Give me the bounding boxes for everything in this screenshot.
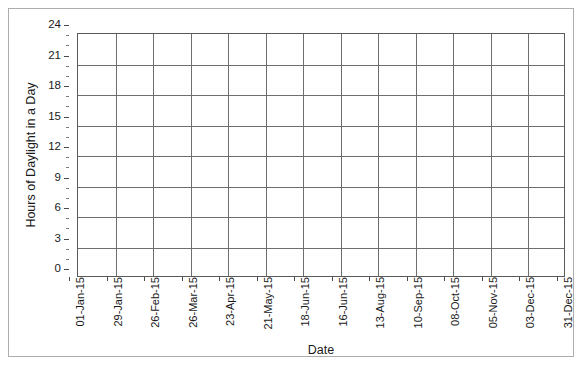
y-axis-title: Hours of Daylight in a Day bbox=[23, 33, 39, 277]
y-minor-tick bbox=[66, 127, 69, 128]
x-tick-label: 08-Oct-15 bbox=[449, 277, 462, 339]
x-tick-label: 31-Dec-15 bbox=[562, 277, 575, 339]
gridline-vertical bbox=[453, 34, 454, 276]
x-major-tick bbox=[557, 277, 558, 281]
y-minor-tick bbox=[66, 249, 69, 250]
y-major-tick bbox=[64, 239, 69, 240]
gridline-vertical bbox=[153, 34, 154, 276]
x-major-tick bbox=[144, 277, 145, 281]
x-tick-label: 16-Jun-15 bbox=[337, 277, 350, 339]
y-minor-tick bbox=[66, 45, 69, 46]
gridline-vertical bbox=[191, 34, 192, 276]
x-tick-label: 18-Jun-15 bbox=[299, 277, 312, 339]
figure-frame: 03691215182124 Hours of Daylight in a Da… bbox=[8, 8, 574, 357]
y-major-tick bbox=[64, 56, 69, 57]
x-tick-label: 03-Dec-15 bbox=[524, 277, 537, 339]
x-major-tick bbox=[444, 277, 445, 281]
x-tick-label: 29-Jan-15 bbox=[112, 277, 125, 339]
y-minor-tick bbox=[66, 35, 69, 36]
y-major-tick bbox=[64, 25, 69, 26]
x-tick-label: 23-Apr-15 bbox=[224, 277, 237, 339]
gridline-vertical bbox=[528, 34, 529, 276]
y-major-tick bbox=[64, 208, 69, 209]
x-tick-label: 05-Nov-15 bbox=[487, 277, 500, 339]
x-major-tick bbox=[332, 277, 333, 281]
gridline-vertical bbox=[228, 34, 229, 276]
gridline-vertical bbox=[416, 34, 417, 276]
x-tick-label: 01-Jan-15 bbox=[74, 277, 87, 339]
x-major-tick bbox=[482, 277, 483, 281]
x-major-tick bbox=[257, 277, 258, 281]
x-major-tick bbox=[294, 277, 295, 281]
y-major-tick bbox=[64, 117, 69, 118]
x-major-tick bbox=[369, 277, 370, 281]
y-minor-tick bbox=[66, 198, 69, 199]
x-major-tick bbox=[69, 277, 70, 281]
x-tick-label: 21-May-15 bbox=[262, 277, 275, 339]
x-major-tick bbox=[219, 277, 220, 281]
y-minor-tick bbox=[66, 157, 69, 158]
gridline-vertical bbox=[303, 34, 304, 276]
x-tick-label: 10-Sep-15 bbox=[412, 277, 425, 339]
gridline-vertical bbox=[116, 34, 117, 276]
x-tick-label: 26-Feb-15 bbox=[149, 277, 162, 339]
y-minor-tick bbox=[66, 66, 69, 67]
y-major-tick bbox=[64, 86, 69, 87]
x-major-tick bbox=[182, 277, 183, 281]
y-minor-tick bbox=[66, 96, 69, 97]
y-major-tick bbox=[64, 178, 69, 179]
y-minor-tick bbox=[66, 76, 69, 77]
gridline-vertical bbox=[491, 34, 492, 276]
y-minor-tick bbox=[66, 188, 69, 189]
y-minor-tick bbox=[66, 106, 69, 107]
gridline-vertical bbox=[266, 34, 267, 276]
y-minor-tick bbox=[66, 228, 69, 229]
x-major-tick bbox=[407, 277, 408, 281]
plot-area bbox=[77, 33, 565, 277]
y-minor-tick bbox=[66, 259, 69, 260]
gridline-vertical bbox=[341, 34, 342, 276]
x-axis-title: Date bbox=[77, 343, 565, 357]
y-major-tick bbox=[64, 147, 69, 148]
y-minor-tick bbox=[66, 218, 69, 219]
x-tick-label: 13-Aug-15 bbox=[374, 277, 387, 339]
gridline-vertical bbox=[378, 34, 379, 276]
x-tick-label: 26-Mar-15 bbox=[187, 277, 200, 339]
x-major-tick bbox=[107, 277, 108, 281]
x-major-tick bbox=[519, 277, 520, 281]
y-tick-label: 24 bbox=[13, 19, 61, 31]
y-minor-tick bbox=[66, 167, 69, 168]
y-major-tick bbox=[64, 269, 69, 270]
y-minor-tick bbox=[66, 137, 69, 138]
